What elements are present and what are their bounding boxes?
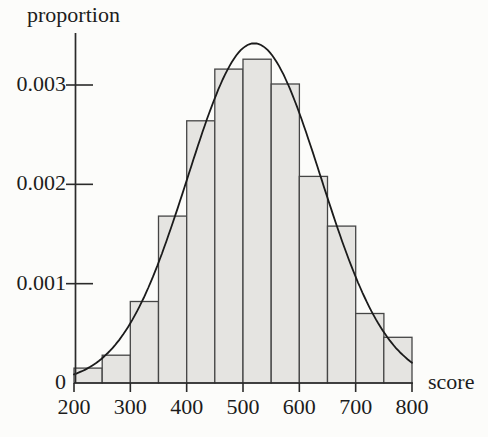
x-tick-label: 300	[102, 395, 158, 419]
histogram-bar	[299, 176, 327, 383]
histogram-bar	[328, 226, 356, 383]
histogram-bar	[130, 302, 158, 384]
plot-canvas	[0, 0, 488, 437]
x-tick-label: 600	[271, 395, 327, 419]
x-tick-label: 700	[328, 395, 384, 419]
histogram-bar	[187, 121, 215, 383]
x-axis-title: score	[428, 370, 474, 394]
histogram-bar	[74, 368, 102, 383]
x-tick-label: 800	[384, 395, 440, 419]
x-tick-label: 500	[215, 395, 271, 419]
histogram-bar	[215, 69, 243, 383]
histogram-bar	[159, 216, 187, 383]
x-tick-label: 200	[46, 395, 102, 419]
y-tick-label: 0.001	[6, 271, 66, 295]
histogram-bar	[102, 355, 130, 383]
y-tick-label: 0.002	[6, 171, 66, 195]
histogram-figure: proportion score 00.0010.0020.003 200300…	[0, 0, 488, 437]
y-tick-label: 0	[6, 370, 66, 394]
y-axis-title: proportion	[27, 3, 120, 27]
histogram-bar	[271, 84, 299, 383]
x-tick-label: 400	[159, 395, 215, 419]
histogram-bar	[356, 314, 384, 384]
y-tick-label: 0.003	[6, 72, 66, 96]
histogram-bar	[243, 59, 271, 383]
